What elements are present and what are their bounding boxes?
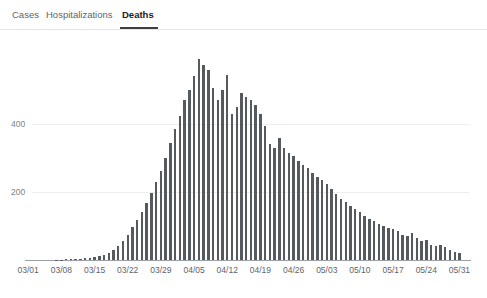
metric-tab-bar: Cases Hospitalizations Deaths <box>0 0 487 29</box>
bar[interactable] <box>311 173 313 260</box>
bar[interactable] <box>79 259 81 260</box>
bar[interactable] <box>326 184 328 261</box>
tab-cases[interactable]: Cases <box>12 9 39 21</box>
bar[interactable] <box>89 258 91 260</box>
bar[interactable] <box>302 165 304 260</box>
bar[interactable] <box>269 144 271 260</box>
bar[interactable] <box>439 245 441 260</box>
x-tick-label-03-15: 03/15 <box>84 265 105 275</box>
bar[interactable] <box>449 250 451 260</box>
x-tick-label-05-17: 05/17 <box>382 265 403 275</box>
bar[interactable] <box>430 245 432 260</box>
x-tick-label-03-08: 03/08 <box>51 265 72 275</box>
bar[interactable] <box>70 259 72 260</box>
bar[interactable] <box>382 226 384 260</box>
bar[interactable] <box>368 219 370 260</box>
bar[interactable] <box>406 236 408 260</box>
bar[interactable] <box>212 88 214 260</box>
bar[interactable] <box>198 59 200 260</box>
bar[interactable] <box>74 259 76 260</box>
tab-hospitalizations[interactable]: Hospitalizations <box>46 9 113 21</box>
bar[interactable] <box>117 246 119 260</box>
bar[interactable] <box>330 189 332 260</box>
bar[interactable] <box>112 250 114 260</box>
bar[interactable] <box>108 253 110 260</box>
bar[interactable] <box>98 256 100 260</box>
bar[interactable] <box>349 206 351 260</box>
bar[interactable] <box>321 180 323 260</box>
bar[interactable] <box>236 107 238 260</box>
bar[interactable] <box>207 70 209 260</box>
bar[interactable] <box>250 100 252 260</box>
x-tick-label-04-19: 04/19 <box>250 265 271 275</box>
deaths-bar-chart: 200400 03/0103/0803/1503/2203/2904/0504/… <box>0 29 487 298</box>
x-tick-label-05-03: 05/03 <box>316 265 337 275</box>
bar[interactable] <box>160 171 162 260</box>
bar[interactable] <box>278 138 280 260</box>
bar[interactable] <box>273 148 275 260</box>
bar[interactable] <box>458 253 460 260</box>
bar[interactable] <box>354 209 356 260</box>
bar[interactable] <box>288 153 290 260</box>
bar[interactable] <box>245 97 247 260</box>
bar[interactable] <box>240 93 242 260</box>
bar[interactable] <box>127 235 129 260</box>
bar[interactable] <box>411 233 413 260</box>
bar[interactable] <box>193 76 195 260</box>
covid-trend-panel: Cases Hospitalizations Deaths 200400 03/… <box>0 0 487 298</box>
bar[interactable] <box>179 116 181 261</box>
y-tick-label-400: 400 <box>11 120 25 129</box>
bar[interactable] <box>84 258 86 260</box>
bar[interactable] <box>183 100 185 260</box>
bar[interactable] <box>359 212 361 260</box>
bar[interactable] <box>307 168 309 260</box>
bar[interactable] <box>416 238 418 260</box>
bar[interactable] <box>136 220 138 260</box>
bar[interactable] <box>150 193 152 260</box>
bar[interactable] <box>254 105 256 260</box>
bar[interactable] <box>292 156 294 260</box>
bar[interactable] <box>444 247 446 260</box>
bar[interactable] <box>264 126 266 260</box>
bar[interactable] <box>131 227 133 260</box>
bar[interactable] <box>169 143 171 260</box>
bar[interactable] <box>401 235 403 261</box>
bar[interactable] <box>373 221 375 260</box>
x-tick-label-03-22: 03/22 <box>117 265 138 275</box>
bar[interactable] <box>454 252 456 261</box>
bar[interactable] <box>397 231 399 260</box>
bar[interactable] <box>420 241 422 260</box>
bar[interactable] <box>122 241 124 260</box>
bar[interactable] <box>164 158 166 260</box>
x-tick-label-05-10: 05/10 <box>349 265 370 275</box>
x-tick-label-04-05: 04/05 <box>183 265 204 275</box>
bar[interactable] <box>188 90 190 260</box>
bar[interactable] <box>297 161 299 260</box>
bar[interactable] <box>335 194 337 260</box>
bar[interactable] <box>145 203 147 260</box>
bar[interactable] <box>435 246 437 260</box>
bar[interactable] <box>141 212 143 260</box>
bar[interactable] <box>103 255 105 260</box>
bar[interactable] <box>174 129 176 260</box>
bar[interactable] <box>231 114 233 260</box>
bar[interactable] <box>363 216 365 260</box>
tab-deaths[interactable]: Deaths <box>122 9 154 21</box>
bar[interactable] <box>155 182 157 260</box>
bar[interactable] <box>283 148 285 260</box>
bar[interactable] <box>93 257 95 260</box>
bar[interactable] <box>259 114 261 260</box>
bar[interactable] <box>202 65 204 261</box>
bar[interactable] <box>425 240 427 260</box>
bar[interactable] <box>378 224 380 260</box>
bar[interactable] <box>221 90 223 260</box>
bar[interactable] <box>65 259 67 260</box>
bar[interactable] <box>345 202 347 260</box>
bar[interactable] <box>226 75 228 260</box>
bar[interactable] <box>387 228 389 260</box>
bar[interactable] <box>392 229 394 260</box>
bar[interactable] <box>316 177 318 260</box>
bar[interactable] <box>340 199 342 260</box>
x-tick-label-05-31: 05/31 <box>449 265 470 275</box>
bar[interactable] <box>217 100 219 260</box>
